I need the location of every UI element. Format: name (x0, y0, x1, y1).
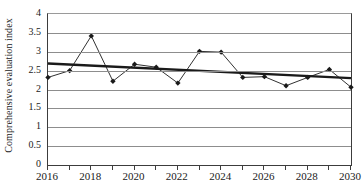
x-axis-tick-label: 2028 (296, 170, 318, 183)
gridline (48, 33, 351, 34)
x-axis-tick-labels: 20162018202020222024202620282030 (0, 170, 363, 187)
x-axis-tick-label: 2024 (209, 170, 231, 183)
y-axis-tick-label: 1.5 (29, 102, 42, 112)
gridline (48, 71, 351, 72)
gridline (48, 146, 351, 147)
y-axis-tick-label: 3 (36, 46, 41, 56)
data-series-line (48, 36, 351, 87)
y-axis-tick-label: 1 (36, 121, 41, 131)
y-axis-title-text: Comprehensive evaluation index (3, 18, 14, 153)
y-axis-tick-label: 3.5 (29, 27, 42, 37)
y-axis-tick-labels: 00.511.522.533.54 (16, 0, 44, 187)
y-axis-tick-label: 4 (36, 8, 41, 18)
gridline (48, 127, 351, 128)
y-axis-tick-label: 2.5 (29, 65, 42, 75)
gridline (48, 108, 351, 109)
y-axis-tick-label: 0.5 (29, 140, 42, 150)
chart-container: Comprehensive evaluation index 00.511.52… (0, 0, 363, 187)
y-axis-title: Comprehensive evaluation index (0, 0, 16, 170)
gridline (48, 90, 351, 91)
y-axis-tick-label: 2 (36, 84, 41, 94)
x-axis-tick-label: 2026 (252, 170, 274, 183)
y-axis-tick-label: 0 (36, 159, 41, 169)
x-axis-tick-label: 2020 (123, 170, 145, 183)
data-point-marker (283, 83, 288, 88)
x-axis-tick-label: 2018 (79, 170, 101, 183)
x-axis-tick-label: 2022 (166, 170, 188, 183)
plot-area (47, 13, 352, 166)
x-axis-tick-label: 2016 (36, 170, 58, 183)
data-point-marker (89, 33, 94, 38)
gridline (48, 52, 351, 53)
data-point-marker (45, 75, 50, 80)
x-axis-tick-label: 2030 (339, 170, 361, 183)
